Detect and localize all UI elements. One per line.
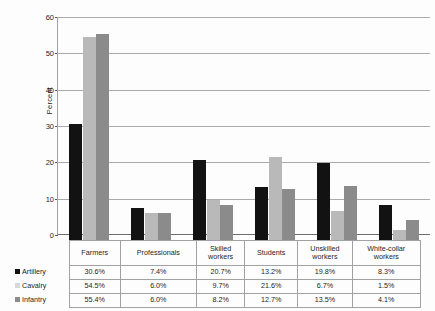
table-row: Cavalry54.5%6.0%9.7%21.6%6.7%1.5%: [14, 280, 421, 294]
legend-item-infantry: Infantry: [14, 294, 69, 308]
data-table: FarmersProfessionalsSkilledworkersStuden…: [14, 240, 421, 308]
table-cell: 8.2%: [197, 294, 245, 308]
table-body: Artillery30.6%7.4%20.7%13.2%19.8%8.3%Cav…: [14, 266, 421, 308]
table-cell: 12.7%: [245, 294, 298, 308]
table-column-header: White-collarworkers: [352, 241, 420, 266]
table-column-header: Unskilledworkers: [298, 241, 352, 266]
bar: [331, 211, 344, 241]
table-column-header-line: workers: [355, 253, 418, 261]
y-tick-label: 20: [32, 158, 54, 167]
table-header-row: FarmersProfessionalsSkilledworkersStuden…: [14, 241, 421, 266]
table-column-header-line: workers: [300, 253, 349, 261]
table-cell: 54.5%: [69, 280, 120, 294]
legend-item-cavalry: Cavalry: [14, 280, 69, 294]
table-cell: 7.4%: [120, 266, 197, 280]
bar: [379, 205, 392, 241]
y-tick-label: 0: [32, 231, 54, 240]
bar: [69, 124, 82, 241]
bar: [317, 163, 330, 241]
bar-group: [244, 17, 306, 235]
table-column-header-line: Professionals: [123, 249, 195, 257]
plot-area: [57, 17, 430, 235]
bar: [145, 213, 158, 241]
bar: [83, 37, 96, 241]
table-column-header: Farmers: [69, 241, 120, 266]
y-tick-label: 10: [32, 194, 54, 203]
bar: [220, 205, 233, 241]
bar: [344, 186, 357, 241]
table-cell: 6.0%: [120, 280, 197, 294]
legend-swatch-icon: [15, 269, 20, 274]
bar-chart-figure: Percent 0102030405060 FarmersProfessiona…: [0, 0, 435, 311]
bar-group: [306, 17, 368, 235]
legend-swatch-icon: [15, 283, 20, 288]
table-cell: 30.6%: [69, 266, 120, 280]
table-cell: 4.1%: [352, 294, 420, 308]
bar: [255, 187, 268, 241]
table-column-header-line: Students: [247, 249, 295, 257]
y-tick-label: 50: [32, 49, 54, 58]
legend-label: Infantry: [22, 295, 46, 304]
table-cell: 55.4%: [69, 294, 120, 308]
y-axis-tick-labels: 0102030405060: [32, 17, 54, 235]
bar: [282, 189, 295, 241]
table-cell: 8.3%: [352, 266, 420, 280]
bar: [269, 157, 282, 241]
bar: [207, 200, 220, 241]
table-column-header: Skilledworkers: [197, 241, 245, 266]
table-column-header: Students: [245, 241, 298, 266]
bar: [96, 34, 109, 241]
y-tick-label: 40: [32, 85, 54, 94]
table-cell: 1.5%: [352, 280, 420, 294]
legend-label: Cavalry: [22, 281, 46, 290]
table-cell: 13.2%: [245, 266, 298, 280]
table-cell: 6.0%: [120, 294, 197, 308]
legend-label: Artillery: [22, 267, 46, 276]
bar: [158, 213, 171, 241]
bar-group: [368, 17, 430, 235]
table-cell: 6.7%: [298, 280, 352, 294]
bars-layer: [58, 17, 430, 235]
table-cell: 19.8%: [298, 266, 352, 280]
bar: [193, 160, 206, 241]
bar: [131, 208, 144, 241]
table-cell: 9.7%: [197, 280, 245, 294]
table-column-header-line: Farmers: [72, 249, 118, 257]
bar-group: [58, 17, 120, 235]
bar: [406, 220, 419, 241]
table-column-header: Professionals: [120, 241, 197, 266]
y-tick-mark: [55, 235, 58, 236]
bar-group: [120, 17, 182, 235]
legend-item-artillery: Artillery: [14, 266, 69, 280]
legend-swatch-icon: [15, 297, 20, 302]
table-row: Infantry55.4%6.0%8.2%12.7%13.5%4.1%: [14, 294, 421, 308]
table-cell: 21.6%: [245, 280, 298, 294]
table-cell: 20.7%: [197, 266, 245, 280]
table-header: FarmersProfessionalsSkilledworkersStuden…: [14, 241, 421, 266]
table-row: Artillery30.6%7.4%20.7%13.2%19.8%8.3%: [14, 266, 421, 280]
bar-group: [182, 17, 244, 235]
table-corner-cell: [14, 241, 69, 266]
y-tick-label: 30: [32, 122, 54, 131]
y-tick-label: 60: [32, 13, 54, 22]
table-column-header-line: workers: [199, 253, 242, 261]
table-cell: 13.5%: [298, 294, 352, 308]
